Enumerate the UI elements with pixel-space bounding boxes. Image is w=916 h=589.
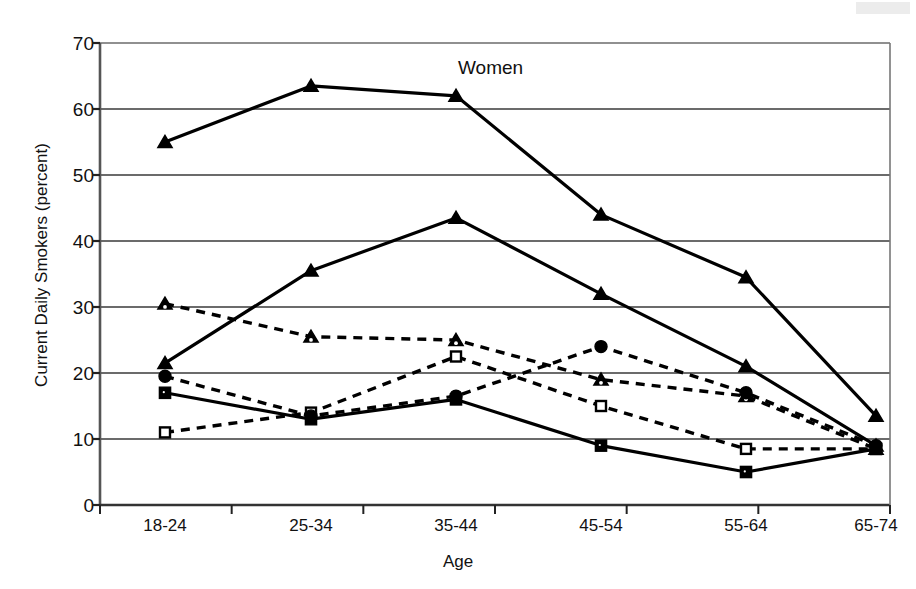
data-series bbox=[159, 341, 882, 452]
chart-figure: Current Daily Smokers (percent) 70 60 50… bbox=[0, 0, 916, 589]
data-series bbox=[158, 297, 883, 454]
x-tick-label: 65-74 bbox=[854, 516, 897, 536]
x-tick-label: 35-44 bbox=[434, 516, 477, 536]
plot-area bbox=[0, 0, 916, 589]
x-axis-title: Age bbox=[0, 552, 916, 572]
data-series bbox=[159, 387, 881, 477]
data-series-layer bbox=[158, 79, 883, 477]
annotation-women: Women bbox=[458, 57, 523, 79]
data-series bbox=[158, 211, 883, 451]
axis-frame bbox=[100, 43, 890, 505]
x-tick-label: 25-34 bbox=[289, 516, 332, 536]
x-tick-label: 55-64 bbox=[724, 516, 767, 536]
x-tick-label: 45-54 bbox=[579, 516, 622, 536]
x-tick-label: 18-24 bbox=[143, 516, 186, 536]
x-axis-tick-marks bbox=[100, 505, 890, 514]
grid-lines bbox=[100, 43, 890, 439]
